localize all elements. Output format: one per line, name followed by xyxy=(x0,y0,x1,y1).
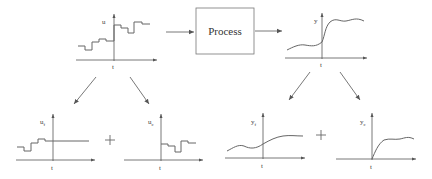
y-axis-label: yc xyxy=(360,118,367,127)
split-arrow-free-output xyxy=(289,72,310,100)
y-axis-label: y xyxy=(314,17,318,25)
x-axis-label: t xyxy=(159,164,161,172)
output-free-plot: yf t xyxy=(225,113,305,170)
x-axis-label: t xyxy=(112,63,114,71)
y-axis-label: uf xyxy=(40,118,46,127)
output-forced-signal xyxy=(372,137,414,159)
output-forced-plot: yc t xyxy=(336,113,416,171)
input-forced-signal xyxy=(161,141,196,152)
split-arrow-forced-output xyxy=(340,72,360,100)
x-axis-label: t xyxy=(320,61,322,69)
y-axis-label: u xyxy=(102,18,106,26)
output-plot: y t xyxy=(285,13,367,69)
x-axis-label: t xyxy=(370,163,372,171)
y-axis-label: uc xyxy=(148,118,155,127)
x-axis-label: t xyxy=(261,162,263,170)
output-signal xyxy=(287,19,364,50)
input-free-plot: uf t xyxy=(16,114,95,172)
split-arrow-forced-input xyxy=(130,77,149,104)
input-forced-plot: uc t xyxy=(124,114,203,172)
output-free-signal xyxy=(227,136,303,151)
block-diagram: u t Process y t uf t uc t xyxy=(0,0,432,179)
input-plot: u t xyxy=(76,14,157,71)
x-axis-label: t xyxy=(51,164,53,172)
split-arrow-free-input xyxy=(74,77,96,104)
process-label: Process xyxy=(208,25,242,37)
y-axis-label: yf xyxy=(251,118,257,127)
process-block: Process xyxy=(196,8,254,54)
